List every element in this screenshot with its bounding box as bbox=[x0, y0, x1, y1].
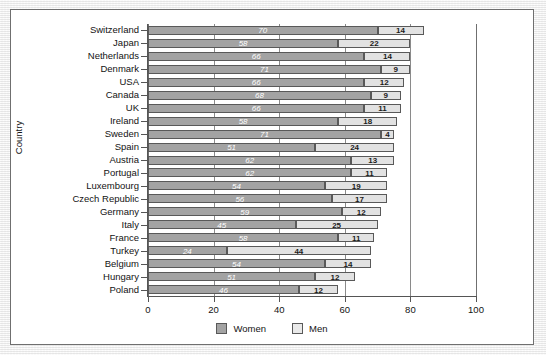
bar-segment-men: 14 bbox=[325, 259, 371, 268]
bar-value-men: 44 bbox=[228, 246, 370, 255]
y-axis-tick bbox=[141, 173, 147, 174]
bar-value-women: 66 bbox=[149, 52, 363, 61]
legend-entry-men[interactable]: Men bbox=[292, 323, 327, 334]
bar-value-men: 14 bbox=[365, 52, 409, 61]
bar-value-women: 54 bbox=[149, 259, 324, 268]
bar-value-women: 70 bbox=[149, 26, 377, 35]
bar-segment-women: 54 bbox=[148, 181, 325, 190]
y-axis-label-turkey: Turkey bbox=[17, 246, 139, 256]
bar-value-women: 58 bbox=[149, 39, 337, 48]
bar-row: 5124 bbox=[148, 143, 476, 152]
bar-segment-men: 17 bbox=[332, 194, 388, 203]
y-axis-label-czech-republic: Czech Republic bbox=[17, 194, 139, 204]
bar-value-men: 19 bbox=[326, 181, 386, 190]
y-axis-tick bbox=[141, 290, 147, 291]
y-axis-tick bbox=[141, 225, 147, 226]
y-axis-label-france: France bbox=[17, 233, 139, 243]
bar-segment-men: 24 bbox=[315, 143, 394, 152]
y-axis-label-poland: Poland bbox=[17, 285, 139, 295]
bar-segment-women: 54 bbox=[148, 259, 325, 268]
bar-value-women: 58 bbox=[149, 117, 337, 126]
bar-row: 6211 bbox=[148, 168, 476, 177]
bar-value-women: 51 bbox=[149, 272, 314, 281]
bar-value-men: 14 bbox=[326, 259, 370, 268]
bar-row: 6213 bbox=[148, 156, 476, 165]
y-axis-tick bbox=[141, 212, 147, 213]
x-axis-tick-60 bbox=[345, 296, 346, 302]
bar-value-men: 11 bbox=[339, 233, 373, 242]
bar-segment-men: 22 bbox=[338, 39, 410, 48]
bar-row: 6611 bbox=[148, 104, 476, 113]
y-axis-tick bbox=[141, 30, 147, 31]
bar-segment-men: 44 bbox=[227, 246, 371, 255]
bar-segment-women: 56 bbox=[148, 194, 332, 203]
bar-value-men: 24 bbox=[316, 143, 393, 152]
bar-row: 5822 bbox=[148, 39, 476, 48]
bar-segment-women: 58 bbox=[148, 39, 338, 48]
legend-swatch-men bbox=[292, 323, 303, 334]
y-axis-tick bbox=[141, 69, 147, 70]
y-axis-tick bbox=[141, 264, 147, 265]
bar-segment-men: 9 bbox=[371, 91, 401, 100]
bar-row: 7014 bbox=[148, 26, 476, 35]
bar-segment-women: 59 bbox=[148, 207, 342, 216]
bar-value-men: 13 bbox=[352, 156, 393, 165]
bar-row: 714 bbox=[148, 130, 476, 139]
chart-frame: Country SwitzerlandJapanNetherlandsDenma… bbox=[10, 9, 534, 345]
bar-value-women: 68 bbox=[149, 91, 370, 100]
bar-value-men: 17 bbox=[333, 194, 387, 203]
y-axis-tick bbox=[141, 56, 147, 57]
bar-row: 5414 bbox=[148, 259, 476, 268]
bar-value-women: 66 bbox=[149, 104, 363, 113]
y-axis-label-spain: Spain bbox=[17, 142, 139, 152]
plot-area: 7014582266147196612689661158187145124621… bbox=[148, 24, 476, 296]
y-axis-tick bbox=[141, 238, 147, 239]
bar-value-men: 9 bbox=[372, 91, 400, 100]
bar-value-men: 12 bbox=[300, 285, 337, 294]
bar-value-women: 56 bbox=[149, 194, 331, 203]
bar-segment-men: 25 bbox=[296, 220, 378, 229]
x-axis-label-40: 40 bbox=[274, 304, 285, 315]
bar-row: 5818 bbox=[148, 117, 476, 126]
bar-value-women: 62 bbox=[149, 168, 350, 177]
legend-label-women: Women bbox=[233, 323, 266, 334]
bar-value-women: 62 bbox=[149, 156, 350, 165]
bar-segment-men: 19 bbox=[325, 181, 387, 190]
y-axis-label-austria: Austria bbox=[17, 155, 139, 165]
bar-row: 5112 bbox=[148, 272, 476, 281]
y-axis-label-luxembourg: Luxembourg bbox=[17, 181, 139, 191]
bar-row: 4525 bbox=[148, 220, 476, 229]
legend-entry-women[interactable]: Women bbox=[216, 323, 266, 334]
y-axis-label-uk: UK bbox=[17, 103, 139, 113]
y-axis-label-netherlands: Netherlands bbox=[17, 51, 139, 61]
bar-segment-women: 66 bbox=[148, 104, 364, 113]
bar-value-men: 25 bbox=[297, 220, 377, 229]
bar-value-men: 9 bbox=[382, 65, 410, 74]
bar-value-women: 71 bbox=[149, 130, 380, 139]
y-axis-label-denmark: Denmark bbox=[17, 64, 139, 74]
bar-segment-women: 70 bbox=[148, 26, 378, 35]
bar-segment-men: 11 bbox=[364, 104, 400, 113]
y-axis-label-sweden: Sweden bbox=[17, 129, 139, 139]
bar-value-women: 24 bbox=[149, 246, 226, 255]
y-axis-label-hungary: Hungary bbox=[17, 272, 139, 282]
y-axis-tick bbox=[141, 43, 147, 44]
bar-segment-women: 24 bbox=[148, 246, 227, 255]
bar-value-men: 12 bbox=[343, 207, 380, 216]
legend-swatch-women bbox=[216, 323, 227, 334]
bar-segment-men: 9 bbox=[381, 65, 411, 74]
bar-value-men: 22 bbox=[339, 39, 409, 48]
bar-value-men: 12 bbox=[365, 78, 402, 87]
bar-row: 6614 bbox=[148, 52, 476, 61]
bar-segment-women: 51 bbox=[148, 272, 315, 281]
bar-segment-men: 12 bbox=[299, 285, 338, 294]
bar-row: 4612 bbox=[148, 285, 476, 294]
x-axis-tick-40 bbox=[279, 296, 280, 302]
bar-value-men: 11 bbox=[352, 168, 386, 177]
bar-segment-women: 68 bbox=[148, 91, 371, 100]
y-axis-tick bbox=[141, 134, 147, 135]
y-axis-labels: SwitzerlandJapanNetherlandsDenmarkUSACan… bbox=[13, 24, 139, 296]
bar-row: 6612 bbox=[148, 78, 476, 87]
y-axis-tick bbox=[141, 147, 147, 148]
x-axis-label-20: 20 bbox=[208, 304, 219, 315]
